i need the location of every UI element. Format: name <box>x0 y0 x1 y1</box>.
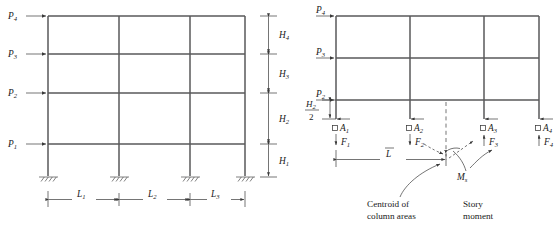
left-frame-supports <box>39 177 255 182</box>
left-frame-columns <box>48 16 245 176</box>
f3-dashed-leader <box>449 141 473 158</box>
story-moment-annotation-leader <box>470 150 492 168</box>
area-square-4 <box>536 126 541 131</box>
figure-canvas: P4 P3 P2 P1 <box>0 0 557 236</box>
right-frame-beams <box>336 16 539 100</box>
load-label-p4: P4 <box>7 11 18 22</box>
left-frame-beams <box>48 16 245 144</box>
centroid-annotation-leader <box>400 164 440 197</box>
fixed-support-1 <box>39 177 58 182</box>
area-label-a1: A1 <box>339 123 349 134</box>
right-frame-columns <box>336 16 539 119</box>
load-label-p2: P2 <box>7 88 18 99</box>
left-frame-bay-dimensions: L1 L2 L3 <box>48 188 245 207</box>
structural-frame-figure: P4 P3 P2 P1 <box>0 0 557 236</box>
story-moment-label: Ms <box>456 172 468 183</box>
load-label-p3: P3 <box>7 49 18 60</box>
story-moment-annotation-line2: moment <box>463 211 494 221</box>
area-square-1 <box>333 126 338 131</box>
cut-height-numerator: H2 <box>305 99 317 110</box>
cut-height-dimension: H2 2 <box>305 99 336 122</box>
centroid-annotation-line1: Centroid of <box>367 199 410 209</box>
cut-height-denominator: 2 <box>309 112 314 122</box>
story-moment-indicator: Ms <box>448 148 468 183</box>
cut-height-fraction-label: H2 2 <box>305 99 319 122</box>
story-moment-arrowhead-curve <box>448 148 460 150</box>
bottom-annotations: Centroid of column areas Story moment <box>367 199 494 221</box>
left-frame-story-height-dimensions: H4 H3 H2 H1 <box>260 16 290 177</box>
height-label-h2: H2 <box>278 114 290 125</box>
axial-label-f1: F1 <box>340 137 350 148</box>
column-area-markers: A1 A2 A3 A4 <box>333 123 553 134</box>
fixed-support-2 <box>110 177 129 182</box>
f2-dashed-leader <box>424 144 443 154</box>
height-label-h3: H3 <box>278 69 290 80</box>
fb-load-label-p4: P4 <box>315 5 326 16</box>
fb-load-label-p2: P2 <box>315 89 326 100</box>
right-frame-load-labels: P4 P3 P2 <box>315 5 326 100</box>
centroid-annotation-line2: column areas <box>367 211 416 221</box>
axial-label-f2: F2 <box>414 137 425 148</box>
centroid-dim-label: L <box>385 149 391 159</box>
load-label-p1: P1 <box>7 139 17 150</box>
fixed-support-3 <box>181 177 200 182</box>
area-label-a2: A2 <box>413 123 424 134</box>
left-frame-load-arrows <box>26 16 46 144</box>
right-frame-group: P4 P3 P2 H2 2 <box>305 5 554 221</box>
axial-label-f4: F4 <box>543 137 554 148</box>
area-square-2 <box>407 126 412 131</box>
axial-label-f3: F3 <box>488 137 499 148</box>
fb-load-label-p3: P3 <box>315 47 326 58</box>
fixed-support-4 <box>236 177 255 182</box>
left-frame-group: P4 P3 P2 P1 <box>7 11 290 207</box>
area-label-a4: A4 <box>542 123 553 134</box>
area-label-a3: A3 <box>487 123 498 134</box>
axial-force-arrows: F1 F2 F3 F4 <box>336 134 554 148</box>
story-moment-annotation-line1: Story <box>463 199 483 209</box>
centroid-dimension: L <box>336 147 446 167</box>
height-label-h1: H1 <box>278 156 289 167</box>
height-label-h4: H4 <box>278 30 290 41</box>
annotation-leaders <box>400 141 492 197</box>
left-frame-load-labels: P4 P3 P2 P1 <box>7 11 18 150</box>
area-square-3 <box>481 126 486 131</box>
